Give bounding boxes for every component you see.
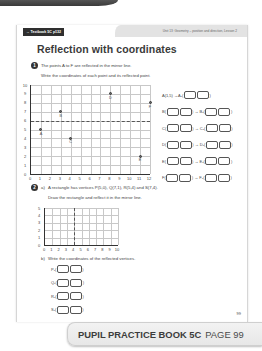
book-title: PUPIL PRACTICE BOOK 5C xyxy=(78,329,201,340)
close-paren: ) xyxy=(231,109,232,114)
question-2a-label: a) xyxy=(41,185,45,190)
answer-row-4: D() → D₁() xyxy=(162,141,233,149)
point-label: C xyxy=(68,140,73,144)
reflected-label: ) → D₁( xyxy=(192,142,205,147)
vertex-row-2: Q₁() xyxy=(51,279,84,287)
x-tick-label: 7 xyxy=(96,176,102,181)
grid-line xyxy=(82,208,83,245)
grid-line xyxy=(45,208,118,209)
grid-line xyxy=(31,156,150,157)
vertex-y-input[interactable] xyxy=(70,279,82,287)
page-title: Reflection with coordinates xyxy=(37,43,177,55)
vertex-x-input[interactable] xyxy=(57,279,69,287)
vertex-row-1: P₁() xyxy=(51,265,84,273)
mirror-line xyxy=(31,121,150,122)
vertex-x-input[interactable] xyxy=(57,265,69,273)
reflected-x-input[interactable] xyxy=(206,124,218,132)
grid-line xyxy=(52,208,53,245)
y-tick-label: 4 xyxy=(22,136,28,141)
reflected-y-input[interactable] xyxy=(218,157,230,165)
book-banner: PUPIL PRACTICE BOOK 5C PAGE 99 xyxy=(67,322,262,346)
point-label: E( xyxy=(162,159,166,164)
point-label: D( xyxy=(162,142,166,147)
reflected-y-input[interactable] xyxy=(218,108,230,116)
vertex-y-input[interactable] xyxy=(70,306,82,314)
y-coord-input[interactable] xyxy=(180,157,192,165)
grid-line xyxy=(31,103,150,104)
x-tick-label: 7 xyxy=(92,247,98,252)
x-tick-label: 6 xyxy=(87,176,93,181)
vertex-label: Q₁( xyxy=(51,280,57,285)
vertex-y-input[interactable] xyxy=(70,292,82,300)
coordinate-grid-2[interactable] xyxy=(44,208,118,246)
reflected-y-input[interactable] xyxy=(218,174,230,182)
reflected-label: ) → E₁( xyxy=(192,159,205,164)
reflected-x-input[interactable] xyxy=(205,174,217,182)
y-tick-label: 0 xyxy=(22,172,28,177)
grid-line xyxy=(45,238,118,239)
point-label: C( xyxy=(162,126,166,131)
top-tab-decoration xyxy=(0,0,118,6)
vertex-y-input[interactable] xyxy=(70,265,82,273)
y-coord-input[interactable] xyxy=(180,108,192,116)
vertex-x-input[interactable] xyxy=(57,306,69,314)
x-coord-input[interactable] xyxy=(167,157,179,165)
y-tick-label: 2 xyxy=(22,154,28,159)
point-label: B( xyxy=(162,109,166,114)
x-coord-input[interactable] xyxy=(166,174,178,182)
grid-line xyxy=(45,215,118,216)
vertex-label: R₁( xyxy=(51,294,57,299)
reflected-y-input[interactable] xyxy=(197,91,209,99)
x-tick-label: 9 xyxy=(107,247,113,252)
y-tick-label: 5 xyxy=(22,127,28,132)
question-1-instruction: Write the coordinates of each point and … xyxy=(41,73,151,78)
x-coord-input[interactable] xyxy=(167,124,179,132)
y-tick-label: 7 xyxy=(22,109,28,114)
answer-row-3: C() → C₁() xyxy=(162,124,233,132)
page-number: 99 xyxy=(237,311,241,316)
page-header: → Textbook 5C p132 Unit 13: Geometry – p… xyxy=(17,25,247,37)
grid-line xyxy=(31,138,150,139)
y-tick-label: 9 xyxy=(22,91,28,96)
reflected-x-input[interactable] xyxy=(184,91,196,99)
close-paren: ) xyxy=(230,175,231,180)
x-tick-label: 10 xyxy=(126,176,132,181)
x-tick-label: 6 xyxy=(85,247,91,252)
reflected-y-input[interactable] xyxy=(219,141,231,149)
reflected-x-input[interactable] xyxy=(205,157,217,165)
vertex-x-input[interactable] xyxy=(57,292,69,300)
question-2a-text: A rectangle has vertices P(5,0), Q(7,1),… xyxy=(48,185,158,190)
vertex-label: P₁( xyxy=(51,267,56,272)
vertex-label: S₁( xyxy=(51,307,56,312)
reflected-x-input[interactable] xyxy=(206,141,218,149)
reflected-y-input[interactable] xyxy=(219,124,231,132)
question-1-badge: 1 xyxy=(31,62,38,69)
answer-row-1: A(1,5) → A₁() xyxy=(162,91,211,99)
point-label: D xyxy=(108,96,113,100)
point-label: F xyxy=(148,105,153,109)
y-coord-input[interactable] xyxy=(179,174,191,182)
point-label: F( xyxy=(162,175,166,180)
close-paren: ) xyxy=(231,126,232,131)
grid-line xyxy=(31,165,150,166)
x-coord-input[interactable] xyxy=(167,108,179,116)
question-2-badge: 2 xyxy=(31,184,38,191)
grid-line xyxy=(118,208,119,245)
y-coord-input[interactable] xyxy=(180,141,192,149)
point-label: B xyxy=(58,114,63,118)
grid-line xyxy=(103,208,104,245)
book-page: PAGE 99 xyxy=(205,329,243,340)
close-paren: ) xyxy=(231,159,232,164)
y-tick-label: 2 xyxy=(36,228,42,233)
unit-label: Unit 13: Geometry – position and directi… xyxy=(115,25,247,37)
close-paren: ) xyxy=(83,294,84,299)
x-coord-input[interactable] xyxy=(167,141,179,149)
x-tick-label: 8 xyxy=(106,176,112,181)
y-coord-input[interactable] xyxy=(180,124,192,132)
x-tick-label: 2 xyxy=(56,247,62,252)
reflected-x-input[interactable] xyxy=(205,108,217,116)
x-tick-label: 10 xyxy=(114,247,120,252)
y-tick-label: 0 xyxy=(36,243,42,248)
mirror-line xyxy=(74,208,75,245)
reflected-label: ) → F₁( xyxy=(192,175,205,180)
